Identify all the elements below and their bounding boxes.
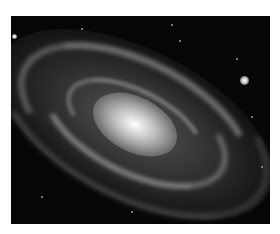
star-speck	[179, 40, 181, 42]
star-speck	[171, 24, 173, 26]
star-speck	[236, 58, 238, 60]
foreground-star	[240, 76, 249, 85]
star-speck	[261, 166, 263, 168]
star-speck	[131, 211, 133, 213]
star-speck	[251, 116, 253, 118]
star-speck	[81, 28, 83, 30]
galaxy-photo	[11, 16, 270, 224]
foreground-star	[12, 34, 17, 39]
galaxy-disk	[11, 16, 270, 224]
star-speck	[41, 196, 43, 198]
